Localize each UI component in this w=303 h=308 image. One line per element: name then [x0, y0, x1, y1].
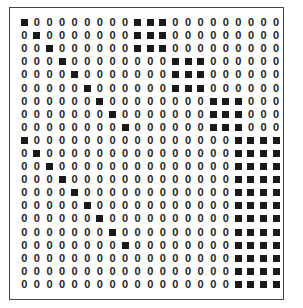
zero-cell: 0 [131, 226, 144, 239]
filled-cell [56, 55, 69, 68]
zero-cell: 0 [18, 186, 31, 199]
zero-cell: 0 [131, 55, 144, 68]
matrix-frame: 0000000000000000000000000000000000000000… [9, 7, 284, 300]
zero-cell: 0 [182, 173, 195, 186]
filled-square-icon [96, 215, 103, 222]
filled-square-icon [260, 268, 267, 275]
filled-cell [81, 81, 94, 94]
zero-cell: 0 [43, 265, 56, 278]
zero-cell: 0 [94, 134, 107, 147]
filled-square-icon [247, 189, 254, 196]
zero-cell: 0 [169, 95, 182, 108]
filled-cell [245, 278, 258, 291]
zero-cell: 0 [81, 121, 94, 134]
zero-cell: 0 [194, 199, 207, 212]
zero-cell: 0 [43, 134, 56, 147]
zero-cell: 0 [106, 160, 119, 173]
zero-cell: 0 [106, 42, 119, 55]
filled-square-icon [59, 58, 66, 65]
zero-cell: 0 [270, 108, 283, 121]
zero-cell: 0 [182, 95, 195, 108]
zero-cell: 0 [31, 42, 44, 55]
zero-cell: 0 [232, 16, 245, 29]
zero-cell: 0 [131, 95, 144, 108]
zero-cell: 0 [119, 226, 132, 239]
zero-cell: 0 [157, 186, 170, 199]
filled-cell [182, 81, 195, 94]
filled-cell [245, 160, 258, 173]
filled-cell [257, 160, 270, 173]
filled-square-icon [247, 163, 254, 170]
zero-cell: 0 [43, 29, 56, 42]
zero-cell: 0 [220, 68, 233, 81]
zero-cell: 0 [207, 147, 220, 160]
zero-cell: 0 [257, 81, 270, 94]
filled-square-icon [172, 58, 179, 65]
zero-cell: 0 [119, 173, 132, 186]
filled-square-icon [273, 150, 280, 157]
filled-cell [270, 173, 283, 186]
filled-square-icon [247, 268, 254, 275]
filled-square-icon [235, 124, 242, 131]
zero-cell: 0 [119, 29, 132, 42]
zero-cell: 0 [43, 95, 56, 108]
zero-cell: 0 [131, 252, 144, 265]
zero-cell: 0 [144, 121, 157, 134]
zero-cell: 0 [144, 212, 157, 225]
filled-cell [232, 239, 245, 252]
zero-cell: 0 [43, 199, 56, 212]
zero-cell: 0 [131, 265, 144, 278]
zero-cell: 0 [220, 239, 233, 252]
zero-cell: 0 [31, 212, 44, 225]
zero-cell: 0 [68, 252, 81, 265]
zero-cell: 0 [194, 42, 207, 55]
zero-cell: 0 [81, 226, 94, 239]
filled-cell [157, 29, 170, 42]
zero-cell: 0 [257, 29, 270, 42]
zero-cell: 0 [220, 160, 233, 173]
zero-cell: 0 [68, 121, 81, 134]
filled-cell [270, 265, 283, 278]
zero-cell: 0 [119, 186, 132, 199]
zero-cell: 0 [94, 16, 107, 29]
zero-cell: 0 [106, 265, 119, 278]
zero-cell: 0 [81, 252, 94, 265]
zero-cell: 0 [131, 81, 144, 94]
zero-cell: 0 [56, 239, 69, 252]
filled-square-icon [260, 202, 267, 209]
zero-cell: 0 [194, 147, 207, 160]
zero-cell: 0 [68, 55, 81, 68]
zero-cell: 0 [207, 55, 220, 68]
zero-cell: 0 [18, 29, 31, 42]
zero-cell: 0 [43, 173, 56, 186]
zero-cell: 0 [182, 265, 195, 278]
zero-cell: 0 [56, 16, 69, 29]
zero-cell: 0 [31, 265, 44, 278]
zero-cell: 0 [194, 134, 207, 147]
filled-cell [56, 173, 69, 186]
zero-cell: 0 [43, 147, 56, 160]
zero-cell: 0 [106, 29, 119, 42]
zero-cell: 0 [144, 160, 157, 173]
filled-square-icon [260, 229, 267, 236]
zero-cell: 0 [220, 278, 233, 291]
filled-cell [257, 239, 270, 252]
zero-cell: 0 [106, 173, 119, 186]
zero-cell: 0 [220, 226, 233, 239]
zero-cell: 0 [81, 16, 94, 29]
zero-cell: 0 [169, 278, 182, 291]
filled-cell [232, 121, 245, 134]
zero-cell: 0 [270, 68, 283, 81]
zero-cell: 0 [56, 278, 69, 291]
zero-cell: 0 [245, 108, 258, 121]
zero-cell: 0 [119, 42, 132, 55]
filled-square-icon [159, 19, 166, 26]
zero-cell: 0 [56, 199, 69, 212]
zero-cell: 0 [207, 252, 220, 265]
zero-cell: 0 [157, 108, 170, 121]
filled-square-icon [185, 58, 192, 65]
filled-cell [257, 278, 270, 291]
zero-cell: 0 [68, 147, 81, 160]
zero-cell: 0 [56, 29, 69, 42]
zero-cell: 0 [182, 226, 195, 239]
